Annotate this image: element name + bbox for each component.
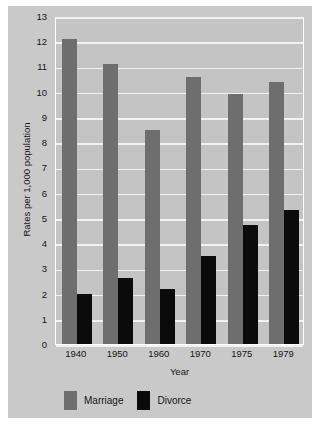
x-tick-label: 1940 [65, 349, 86, 359]
x-tick-label: 1950 [107, 349, 128, 359]
bar-group [269, 18, 299, 344]
bar-group [145, 18, 175, 344]
y-tick-label: 2 [42, 290, 47, 300]
y-tick-label: 5 [42, 214, 47, 224]
y-tick-label: 6 [42, 189, 47, 199]
y-tick-label: 8 [42, 138, 47, 148]
plot-inner [56, 18, 303, 344]
gridline [56, 244, 303, 246]
y-tick-label: 11 [37, 63, 47, 73]
x-tick-label: 1970 [190, 349, 211, 359]
y-tick-label: 9 [42, 113, 47, 123]
y-tick-label: 1 [42, 315, 47, 325]
gridline [56, 17, 303, 19]
y-tick-label: 0 [42, 340, 47, 350]
x-tick-label: 1975 [231, 349, 252, 359]
gridline [56, 42, 303, 44]
bar-group [62, 18, 92, 344]
y-tick-label: 7 [42, 164, 47, 174]
gridline [56, 93, 303, 95]
gridline [56, 219, 303, 221]
y-tick-label: 4 [42, 239, 47, 249]
plot-area [55, 17, 304, 345]
legend-swatch-marriage [64, 391, 77, 410]
chart-legend: MarriageDivorce [64, 391, 191, 410]
legend-item-divorce[interactable]: Divorce [137, 391, 191, 410]
chart-card: Rates per 1,000 population 0123456789101… [8, 6, 312, 418]
gridline [56, 270, 303, 272]
legend-label: Marriage [84, 396, 123, 406]
y-axis-tick-labels: 012345678910111213 [8, 17, 52, 345]
bar-marriage-1940[interactable] [62, 39, 77, 344]
bar-divorce-1970[interactable] [201, 256, 216, 344]
y-tick-label: 13 [36, 12, 47, 22]
y-tick-label: 10 [36, 88, 47, 98]
legend-swatch-divorce [137, 391, 150, 410]
bar-marriage-1950[interactable] [103, 64, 118, 344]
x-tick-label: 1960 [148, 349, 169, 359]
bar-marriage-1960[interactable] [145, 130, 160, 344]
bar-group [228, 18, 258, 344]
bar-marriage-1970[interactable] [186, 77, 201, 344]
y-tick-label: 3 [42, 265, 47, 275]
bar-group [103, 18, 133, 344]
y-tick-label: 12 [36, 37, 47, 47]
bar-divorce-1979[interactable] [284, 210, 299, 344]
bar-divorce-1940[interactable] [77, 294, 92, 344]
legend-label: Divorce [157, 396, 191, 406]
bar-marriage-1979[interactable] [269, 82, 284, 344]
bar-divorce-1960[interactable] [160, 289, 175, 345]
gridline [56, 295, 303, 297]
bar-divorce-1950[interactable] [118, 278, 133, 344]
bar-group [186, 18, 216, 344]
legend-item-marriage[interactable]: Marriage [64, 391, 123, 410]
x-axis-title: Year [55, 366, 304, 377]
gridline [56, 68, 303, 70]
gridline [56, 169, 303, 171]
x-tick-label: 1979 [273, 349, 294, 359]
gridline [56, 143, 303, 145]
bar-marriage-1975[interactable] [228, 94, 243, 344]
bar-divorce-1975[interactable] [243, 225, 258, 344]
gridline [56, 320, 303, 322]
gridline [56, 194, 303, 196]
x-axis-tick-labels: 194019501960197019751979 [55, 349, 304, 363]
gridline [56, 345, 303, 347]
gridline [56, 118, 303, 120]
